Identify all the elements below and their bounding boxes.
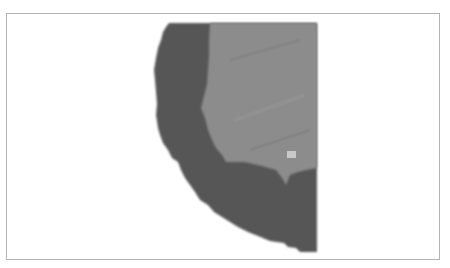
scan-image: [0, 0, 450, 268]
highlight-spot: [287, 151, 296, 158]
